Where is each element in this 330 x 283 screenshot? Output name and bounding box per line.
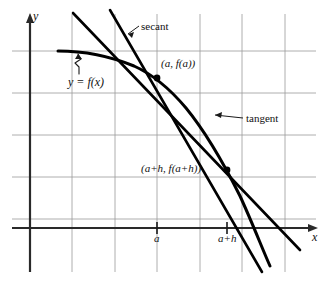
x-axis	[12, 224, 318, 232]
point-a-plus-h-marker	[224, 167, 231, 174]
secant-line	[110, 10, 262, 272]
secant-annotation-label: secant	[141, 21, 168, 32]
secant-tangent-figure: y x secant tangent y = f(x) (a, f(a)) (a…	[0, 0, 330, 283]
grid-horizontal-lines	[12, 51, 316, 219]
function-label-leader-line	[75, 54, 82, 74]
figure-canvas	[0, 0, 330, 283]
y-axis	[26, 13, 34, 272]
x-tick-label-a: a	[154, 233, 160, 244]
x-axis-label: x	[312, 231, 317, 243]
secant-leader-line	[128, 26, 139, 38]
tangent-leader-line	[215, 112, 243, 118]
point-a-marker	[154, 75, 161, 82]
function-equation-label: y = f(x)	[68, 76, 104, 88]
y-axis-label: y	[33, 10, 38, 22]
x-tick-label-a-plus-h: a+h	[218, 233, 236, 244]
tangent-annotation-label: tangent	[246, 113, 278, 124]
point-a-plus-h-label: (a+h, f(a+h))	[141, 163, 201, 174]
point-a-label: (a, f(a))	[161, 58, 195, 69]
tangent-line	[73, 13, 300, 250]
